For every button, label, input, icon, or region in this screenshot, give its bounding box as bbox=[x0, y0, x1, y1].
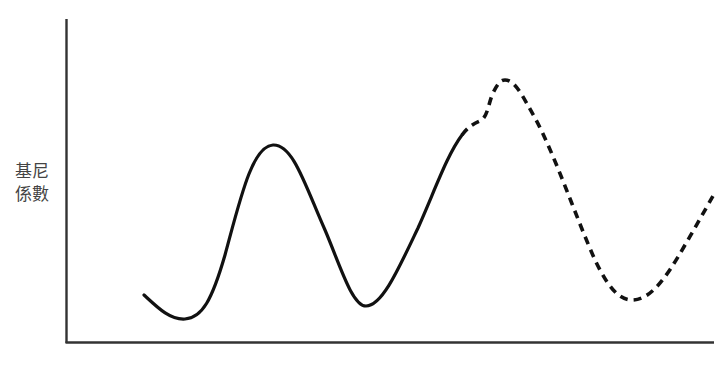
solid-curve bbox=[144, 135, 462, 319]
y-axis-label-line2: 係數 bbox=[6, 183, 58, 206]
y-axis-label: 基尼 係數 bbox=[6, 160, 58, 206]
gini-coefficient-diagram bbox=[0, 0, 721, 368]
dashed-curve bbox=[462, 80, 713, 300]
y-axis-label-line1: 基尼 bbox=[6, 160, 58, 183]
